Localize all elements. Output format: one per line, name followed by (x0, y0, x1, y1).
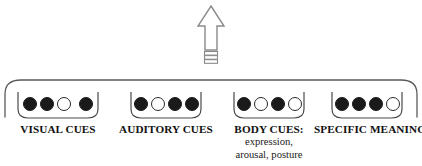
dots-wrap-visual-cues (6, 92, 110, 122)
dot-hollow (151, 97, 165, 111)
diagram-canvas: VISUAL CUES AUDITORY CUES (0, 0, 422, 166)
cue-group-auditory-cues[interactable]: AUDITORY CUES (113, 92, 219, 136)
cue-group-body-cues[interactable]: BODY CUES: expression, arousal, posture (216, 92, 322, 161)
cue-group-sublabel-line1: expression, (216, 136, 322, 149)
dot-filled (79, 97, 93, 111)
upward-arrow-icon (186, 2, 236, 68)
dot-row-visual-cues (6, 95, 110, 113)
cue-group-label: VISUAL CUES (6, 123, 110, 136)
dot-filled (271, 97, 285, 111)
cue-group-label: BODY CUES: (216, 123, 322, 136)
dot-filled (237, 97, 251, 111)
dot-filled (23, 97, 37, 111)
dot-filled (352, 97, 366, 111)
dot-row-body-cues (216, 95, 322, 113)
dot-hollow (254, 97, 268, 111)
dot-filled (40, 97, 54, 111)
cue-group-visual-cues[interactable]: VISUAL CUES (6, 92, 110, 136)
dot-filled (335, 97, 349, 111)
dot-hollow (386, 97, 400, 111)
dot-filled (134, 97, 148, 111)
dot-row-specific-meanings (314, 95, 420, 113)
cue-groups: VISUAL CUES AUDITORY CUES (0, 92, 422, 166)
dots-wrap-body-cues (216, 92, 322, 122)
dots-wrap-specific-meanings (314, 92, 420, 122)
dot-filled (369, 97, 383, 111)
cue-group-label: SPECIFIC MEANINGS (314, 123, 420, 136)
dot-filled (168, 97, 182, 111)
dot-hollow (57, 97, 71, 111)
dot-hollow (288, 97, 302, 111)
dot-filled (185, 97, 199, 111)
cue-group-sublabel-line2: arousal, posture (216, 149, 322, 162)
cue-group-label: AUDITORY CUES (113, 123, 219, 136)
cue-group-specific-meanings[interactable]: SPECIFIC MEANINGS (314, 92, 420, 136)
dot-row-auditory-cues (113, 95, 219, 113)
dots-wrap-auditory-cues (113, 92, 219, 122)
